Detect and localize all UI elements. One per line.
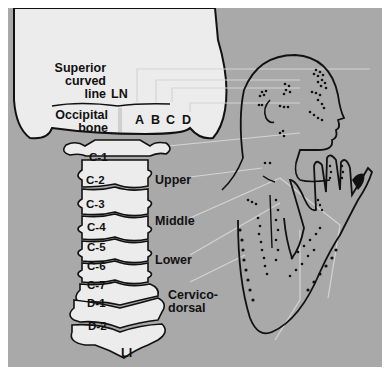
vertebra-d2-label: D-2: [88, 320, 107, 332]
arm-outline: [238, 155, 372, 333]
region-middle-label: Middle: [155, 215, 195, 228]
neck-back: [222, 158, 243, 190]
point-a-label: A: [135, 114, 144, 127]
vertebra-c5-label: C-5: [87, 241, 106, 253]
diagram-frame: Superior curved line LN Occipital bone A…: [8, 8, 382, 367]
point-d-label: D: [182, 114, 191, 127]
region-upper-label: Upper: [155, 174, 191, 187]
ln-label: LN: [111, 88, 128, 101]
sensory-dots: [238, 69, 364, 302]
li-label: LI: [121, 347, 132, 360]
vertebra-c3-label: C-3: [86, 198, 105, 210]
vertebra-c2-label: C-2: [86, 174, 105, 186]
point-c-label: C: [166, 114, 175, 127]
occipital-bone-label: Occipital bone: [18, 109, 108, 135]
vertebra-c1-label: C-1: [89, 151, 108, 163]
vertebra-d1-label: D-1: [87, 297, 106, 309]
vertebra-c6-label: C-6: [87, 260, 106, 272]
vertebra-c4-label: C-4: [87, 221, 106, 233]
vertebra-c7-label: C-7: [87, 279, 106, 291]
point-b-label: B: [151, 114, 160, 127]
region-cervicodorsal-label: Cervico- dorsal: [168, 289, 218, 315]
head-outline: [241, 55, 344, 163]
region-lower-label: Lower: [155, 254, 192, 267]
superior-curved-line-label: Superior curved line: [30, 62, 106, 101]
